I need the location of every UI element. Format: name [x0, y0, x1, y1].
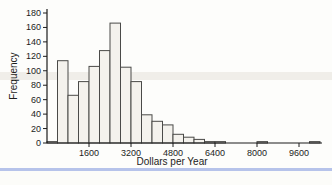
- y-tick-label: 40: [31, 109, 41, 119]
- y-tick-label: 20: [31, 124, 41, 134]
- histogram-bar: [110, 23, 121, 143]
- y-tick-label: 120: [26, 51, 41, 61]
- y-tick-label: 140: [26, 37, 41, 47]
- histogram-bar: [121, 67, 132, 143]
- y-axis-title: Frequency: [8, 36, 20, 116]
- y-tick-label: 60: [31, 95, 41, 105]
- x-tick-label: 1600: [79, 148, 99, 158]
- histogram-bar: [100, 51, 111, 143]
- y-tick-label: 180: [26, 8, 41, 18]
- y-axis: 020406080100120140160180: [26, 8, 47, 148]
- histogram-bar: [58, 61, 69, 143]
- histogram-figure: 0204060801001201401601801600320048006400…: [0, 0, 332, 185]
- histogram-bar: [142, 115, 153, 143]
- x-tick-label: 8000: [247, 148, 267, 158]
- bars-group: [47, 23, 320, 143]
- x-tick-label: 9600: [289, 148, 309, 158]
- y-tick-label: 160: [26, 22, 41, 32]
- histogram-bar: [152, 121, 163, 143]
- histogram-bar: [131, 82, 142, 143]
- histogram-bar: [173, 134, 184, 143]
- y-tick-label: 100: [26, 66, 41, 76]
- histogram-bar: [163, 125, 174, 143]
- histogram-bar: [89, 66, 100, 143]
- y-tick-label: 80: [31, 80, 41, 90]
- histogram-bar: [68, 95, 79, 143]
- histogram-bar: [184, 137, 195, 143]
- histogram-bar: [79, 82, 90, 143]
- x-axis-title: Dollars per Year: [122, 156, 222, 168]
- y-tick-label: 0: [36, 138, 41, 148]
